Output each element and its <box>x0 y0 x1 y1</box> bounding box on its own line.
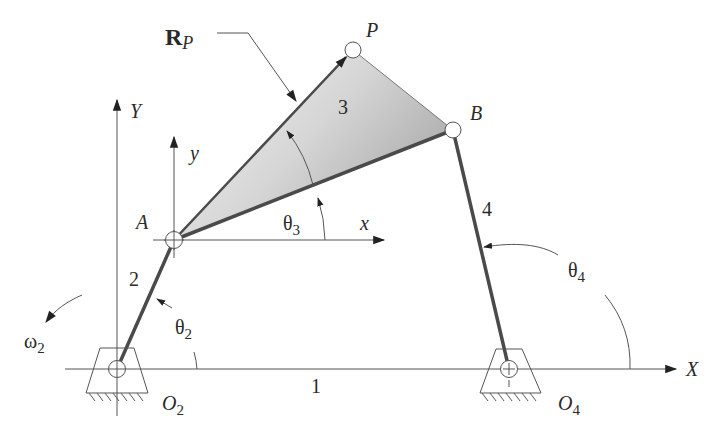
label-theta3-sub: 3 <box>293 222 301 238</box>
fourbar-diagram: RP P B A Y y x X 1 2 3 4 θ2 θ3 θ4 ω2 O2 … <box>0 0 716 431</box>
diagram-canvas: RP P B A Y y x X 1 2 3 4 θ2 θ3 θ4 ω2 O2 … <box>0 0 716 431</box>
label-link-1: 1 <box>311 375 321 397</box>
svg-text:O4: O4 <box>558 392 580 418</box>
svg-text:θ4: θ4 <box>568 259 586 285</box>
label-theta2: θ <box>175 316 185 338</box>
label-theta4-sub: 4 <box>578 269 586 285</box>
label-x-local: x <box>359 212 369 234</box>
label-omega2: ω <box>24 330 37 352</box>
label-O4: O <box>558 392 572 414</box>
label-R: R <box>165 24 183 50</box>
label-B: B <box>470 102 482 124</box>
ground-pivot-icon <box>480 349 541 401</box>
label-y-local: y <box>188 142 199 165</box>
label-link-3: 3 <box>338 96 348 118</box>
svg-text:θ3: θ3 <box>283 212 300 238</box>
label-O2: O <box>162 392 176 414</box>
coupler-link-3 <box>174 50 453 240</box>
label-A: A <box>134 211 149 233</box>
link-4-rocker <box>453 130 509 369</box>
label-Y: Y <box>130 100 143 122</box>
label-theta4: θ <box>568 259 578 281</box>
label-theta3: θ <box>283 212 293 234</box>
svg-text:RP: RP <box>165 24 193 53</box>
label-R-sub: P <box>181 33 193 53</box>
pin-B <box>445 122 461 138</box>
label-link-2: 2 <box>129 268 139 290</box>
svg-text:O2: O2 <box>162 392 184 418</box>
svg-text:ω2: ω2 <box>24 330 45 356</box>
label-X: X <box>685 358 699 380</box>
label-link-4: 4 <box>482 198 492 220</box>
coupler-point-P <box>345 42 361 58</box>
svg-text:θ2: θ2 <box>175 316 192 342</box>
label-P: P <box>365 19 378 41</box>
label-O4-sub: 4 <box>572 402 580 418</box>
label-theta2-sub: 2 <box>185 326 193 342</box>
label-O2-sub: 2 <box>176 402 184 418</box>
label-omega2-sub: 2 <box>37 340 45 356</box>
